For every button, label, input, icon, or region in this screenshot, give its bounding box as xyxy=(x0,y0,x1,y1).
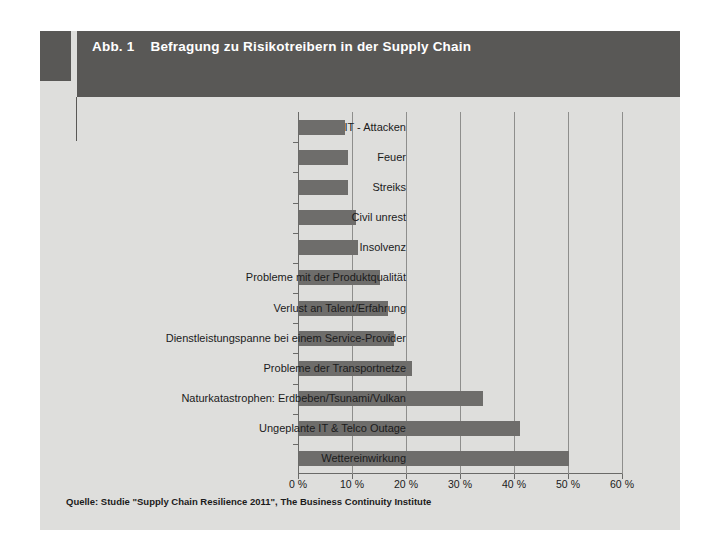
gridline xyxy=(622,112,623,474)
y-axis-tick xyxy=(293,263,298,264)
category-label: IT - Attacken xyxy=(344,120,406,135)
y-axis-tick xyxy=(293,444,298,445)
y-axis-tick xyxy=(293,172,298,173)
y-axis-tick xyxy=(293,142,298,143)
y-axis-tick xyxy=(293,414,298,415)
chart-plot-area xyxy=(298,112,623,474)
y-axis-tick xyxy=(293,233,298,234)
category-label: Wettereinwirkung xyxy=(321,451,406,466)
category-label: Naturkatastrophen: Erdbeben/Tsunami/Vulk… xyxy=(181,391,406,406)
y-axis-tick xyxy=(293,384,298,385)
bar xyxy=(299,150,348,165)
gridline xyxy=(460,112,461,474)
gridline xyxy=(406,112,407,474)
category-label: Verlust an Talent/Erfahrung xyxy=(274,301,407,316)
category-label: Streiks xyxy=(372,180,406,195)
category-label: Civil unrest xyxy=(352,210,406,225)
category-label: Insolvenz xyxy=(360,240,406,255)
category-label: Probleme mit der Produktqualität xyxy=(246,270,406,285)
figure-number: Abb. 1 xyxy=(92,39,134,54)
y-axis-tick xyxy=(293,293,298,294)
source-note: Quelle: Studie "Supply Chain Resilience … xyxy=(66,496,431,507)
page-title: Befragung zu Risikotreibern in der Suppl… xyxy=(150,39,471,54)
category-label: Ungeplante IT & Telco Outage xyxy=(259,421,406,436)
x-axis-tick-label: 60 % xyxy=(610,478,634,490)
figure-header: Abb. 1Befragung zu Risikotreibern in der… xyxy=(92,39,471,54)
header-accent-block xyxy=(40,31,71,81)
bar xyxy=(299,180,348,195)
gridline xyxy=(352,112,353,474)
category-label: Probleme der Transportnetze xyxy=(264,361,406,376)
bar xyxy=(299,240,358,255)
gridline xyxy=(514,112,515,474)
y-axis-tick xyxy=(293,203,298,204)
x-axis-tick-label: 30 % xyxy=(448,478,472,490)
x-axis-tick-label: 0 % xyxy=(289,478,307,490)
x-axis-tick-label: 40 % xyxy=(502,478,526,490)
bar xyxy=(299,120,345,135)
category-label: Feuer xyxy=(377,150,406,165)
category-label: Dienstleistungspanne bei einem Service-P… xyxy=(166,331,406,346)
x-axis-tick-label: 20 % xyxy=(394,478,418,490)
x-axis-tick-label: 50 % xyxy=(556,478,580,490)
figure-root: Abb. 1Befragung zu Risikotreibern in der… xyxy=(0,0,712,560)
x-axis-tick-label: 10 % xyxy=(340,478,364,490)
y-axis-tick xyxy=(293,353,298,354)
bar xyxy=(299,210,356,225)
y-axis-line xyxy=(298,112,299,474)
y-axis-tick xyxy=(293,323,298,324)
header-vertical-rule xyxy=(76,97,77,141)
gridline xyxy=(568,112,569,474)
